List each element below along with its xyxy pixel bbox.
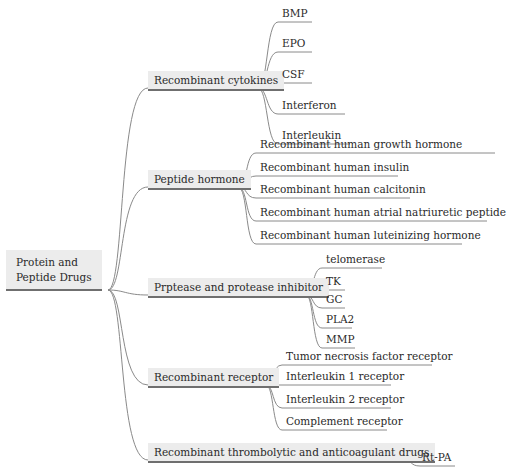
leaf-luteinizing-hormone[interactable]: Recombinant human luteinizing hormone — [258, 229, 483, 244]
leaf-epo[interactable]: EPO — [280, 37, 307, 52]
leaf-growth-hormone[interactable]: Recombinant human growth hormone — [258, 138, 464, 153]
leaf-calcitonin[interactable]: Recombinant human calcitonin — [258, 183, 428, 198]
branch-peptide-hormone[interactable]: Peptide hormone — [148, 170, 251, 190]
leaf-pla2[interactable]: PLA2 — [324, 313, 356, 328]
root-label-line2: Peptide Drugs — [16, 270, 92, 285]
leaf-telomerase[interactable]: telomerase — [324, 253, 387, 268]
branch-recombinant-cytokines[interactable]: Recombinant cytokines — [148, 71, 284, 91]
leaf-mmp[interactable]: MMP — [324, 333, 357, 348]
leaf-insulin[interactable]: Recombinant human insulin — [258, 161, 411, 176]
branch-protease-inhibitor[interactable]: Prptease and protease inhibitor — [148, 278, 329, 298]
root-node[interactable]: Protein and Peptide Drugs — [6, 250, 102, 291]
leaf-interferon[interactable]: Interferon — [280, 99, 339, 114]
leaf-csf[interactable]: CSF — [280, 68, 307, 83]
leaf-rt-pa[interactable]: Rt-PA — [420, 451, 453, 466]
leaf-complement-receptor[interactable]: Complement receptor — [284, 415, 405, 430]
leaf-il2-receptor[interactable]: Interleukin 2 receptor — [284, 393, 406, 408]
leaf-tk[interactable]: TK — [324, 275, 343, 290]
branch-thrombolytic-anticoagulant[interactable]: Recombinant thrombolytic and anticoagula… — [148, 443, 435, 463]
root-label-line1: Protein and — [16, 255, 92, 270]
leaf-gc[interactable]: GC — [324, 293, 344, 308]
leaf-bmp[interactable]: BMP — [280, 7, 310, 22]
leaf-il1-receptor[interactable]: Interleukin 1 receptor — [284, 370, 406, 385]
branch-recombinant-receptor[interactable]: Recombinant receptor — [148, 368, 279, 388]
leaf-tnf-receptor[interactable]: Tumor necrosis factor receptor — [284, 350, 455, 365]
leaf-atrial-natriuretic-peptide[interactable]: Recombinant human atrial natriuretic pep… — [258, 206, 508, 221]
